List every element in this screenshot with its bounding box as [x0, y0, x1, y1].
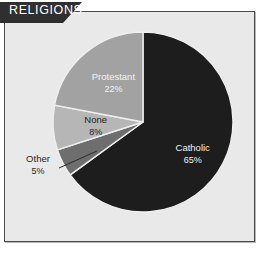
slice-value-protestant: 22%: [104, 84, 122, 94]
slice-value-other: 5%: [31, 166, 44, 176]
slice-label-none: None: [84, 114, 107, 125]
slice-value-none: 8%: [89, 127, 102, 137]
slice-value-catholic: 65%: [184, 155, 202, 165]
slice-label-other: Other: [26, 153, 50, 164]
pie-slice-group: [53, 32, 233, 212]
pie-chart-svg: Catholic65%Other5%None8%Protestant22%: [0, 0, 261, 253]
slice-label-protestant: Protestant: [92, 71, 136, 82]
slice-label-catholic: Catholic: [176, 142, 211, 153]
pie-chart: Catholic65%Other5%None8%Protestant22%: [0, 0, 261, 253]
page-title: RELIGIONS: [9, 3, 82, 18]
religions-pie-figure: RELIGIONS Catholic65%Other5%None8%Protes…: [0, 0, 261, 253]
